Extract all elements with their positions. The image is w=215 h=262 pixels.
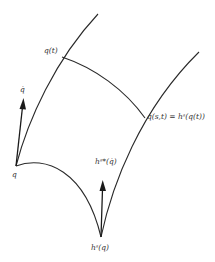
label-hs-q: hˢ(q) [91,244,109,252]
right-curve [101,52,199,237]
label-q: q [12,171,17,179]
bottom-curve [16,163,101,237]
q-dot-vector [16,107,23,166]
left-curve [16,14,98,166]
label-q-t: q(t) [44,47,58,55]
q-dot-arrowhead-icon [20,98,27,110]
diagram-canvas [0,0,215,262]
label-q-s-t: q(s,t) = hˢ(q(t)) [147,113,205,121]
label-hs-star-qdot: hˢ*(q̇) [95,158,117,166]
label-q-dot: q̇ [20,86,25,94]
pushforward-arrowhead-icon [100,180,107,191]
middle-curve [62,57,145,118]
